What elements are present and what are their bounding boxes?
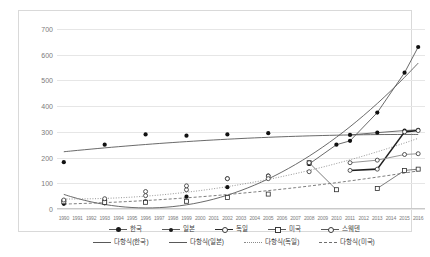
series-segment-한국 — [405, 47, 419, 73]
trendline-한국 — [64, 63, 418, 208]
data-point-스웨덴 — [403, 152, 407, 156]
data-point-스웨덴 — [103, 197, 107, 201]
x-tick-label: 2016 — [411, 213, 425, 223]
legend-marker-filled-circle-icon — [116, 227, 121, 232]
legend-symbol-icon — [215, 226, 233, 234]
legend-marker-filled-circle-icon — [169, 228, 173, 232]
x-tick-label: 1998 — [166, 213, 180, 223]
y-tick-label: 300 — [41, 128, 53, 135]
x-tick-label: 2000 — [193, 213, 207, 223]
data-point-스웨덴 — [348, 161, 352, 165]
legend-item-series-4[interactable]: 스웨덴 — [321, 226, 360, 234]
legend-item-series-3[interactable]: 미국 — [268, 226, 301, 234]
legend-label: 스웨덴 — [342, 226, 360, 233]
legend-row-series: 한국일본독일미국스웨덴 — [37, 223, 430, 236]
x-tick-label: 1997 — [152, 213, 166, 223]
x-tick-label: 2013 — [370, 213, 384, 223]
legend-label: 다항식(미국) — [340, 239, 374, 246]
x-tick-label: 2011 — [343, 213, 357, 223]
chart-screenshot: 0100200300400500600700 19901991199219931… — [0, 0, 430, 257]
legend-label: 미국 — [289, 226, 301, 233]
data-point-일본 — [266, 131, 270, 135]
data-point-한국 — [334, 143, 338, 147]
data-point-스웨덴 — [62, 198, 66, 202]
data-point-미국 — [103, 201, 107, 205]
data-point-스웨덴 — [144, 190, 148, 194]
data-point-독일 — [416, 129, 420, 133]
legend-symbol-icon — [162, 226, 180, 234]
x-tick-label: 1999 — [180, 213, 194, 223]
data-point-일본 — [143, 132, 147, 136]
gridline — [57, 209, 425, 210]
series-segment-한국 — [350, 113, 377, 141]
legend-item-trendline-2[interactable]: 다항식(독일) — [244, 239, 299, 247]
x-tick-label: 2014 — [384, 213, 398, 223]
x-tick-label: 1992 — [84, 213, 98, 223]
data-point-일본 — [225, 132, 229, 136]
legend-symbol-icon — [321, 226, 339, 234]
x-tick-label: 2008 — [302, 213, 316, 223]
data-point-독일 — [348, 168, 352, 172]
data-point-미국 — [225, 195, 229, 199]
data-point-일본 — [62, 160, 66, 164]
legend-item-series-0[interactable]: 한국 — [109, 226, 142, 234]
data-point-한국 — [348, 139, 352, 143]
legend-item-trendline-1[interactable]: 다항식(일본) — [169, 239, 224, 247]
x-tick-label: 2002 — [221, 213, 235, 223]
x-tick-label: 2001 — [207, 213, 221, 223]
data-point-미국 — [334, 188, 338, 192]
data-point-미국 — [403, 168, 407, 172]
data-point-독일 — [144, 194, 148, 198]
legend-label: 독일 — [236, 226, 248, 233]
data-point-한국 — [416, 45, 420, 49]
legend-item-trendline-3[interactable]: 다항식(미국) — [319, 239, 374, 247]
x-tick-label: 2010 — [330, 213, 344, 223]
data-point-스웨덴 — [375, 158, 379, 162]
y-tick-label: 200 — [41, 154, 53, 161]
legend-symbol-icon — [93, 239, 111, 247]
legend-item-series-1[interactable]: 일본 — [162, 226, 195, 234]
legend-item-series-2[interactable]: 독일 — [215, 226, 248, 234]
data-point-일본 — [103, 143, 107, 147]
y-tick-label: 0 — [49, 206, 53, 213]
x-axis-tick-labels: 1990199119921993199419951996199719981999… — [57, 213, 425, 223]
data-point-스웨덴 — [225, 177, 229, 181]
x-tick-label: 1991 — [71, 213, 85, 223]
data-point-독일 — [403, 130, 407, 134]
legend-symbol-icon — [169, 239, 187, 247]
data-point-한국 — [402, 71, 406, 75]
series-segment-스웨덴 — [350, 160, 377, 163]
y-tick-label: 600 — [41, 51, 53, 58]
y-tick-label: 700 — [41, 26, 53, 33]
data-point-한국 — [225, 185, 229, 189]
trendline-독일 — [64, 138, 418, 199]
data-point-스웨덴 — [266, 177, 270, 181]
plot-area: 0100200300400500600700 — [57, 29, 425, 209]
series-segment-스웨덴 — [377, 154, 404, 160]
legend-label: 다항식(독일) — [265, 239, 299, 246]
series-layer — [57, 29, 425, 209]
x-tick-label: 1993 — [98, 213, 112, 223]
data-point-한국 — [375, 110, 379, 114]
y-tick-label: 100 — [41, 180, 53, 187]
x-tick-label: 2005 — [261, 213, 275, 223]
data-point-독일 — [184, 188, 188, 192]
x-tick-label: 2007 — [289, 213, 303, 223]
x-tick-label: 1994 — [112, 213, 126, 223]
data-point-독일 — [375, 167, 379, 171]
legend-symbol-icon — [268, 226, 286, 234]
series-segment-한국 — [309, 145, 336, 164]
legend-item-trendline-0[interactable]: 다항식(한국) — [93, 239, 148, 247]
legend-label: 다항식(일본) — [190, 239, 224, 246]
data-point-미국 — [144, 200, 148, 204]
data-point-일본 — [184, 134, 188, 138]
legend-label: 한국 — [130, 226, 142, 233]
data-point-독일 — [307, 170, 311, 174]
series-segment-한국 — [377, 73, 404, 113]
chart-frame: 0100200300400500600700 19901991199219931… — [18, 10, 412, 232]
legend-marker-open-square-icon — [275, 227, 281, 233]
legend-symbol-icon — [319, 239, 337, 247]
series-segment-일본 — [377, 131, 404, 133]
x-tick-label: 2015 — [398, 213, 412, 223]
x-tick-label: 2009 — [316, 213, 330, 223]
